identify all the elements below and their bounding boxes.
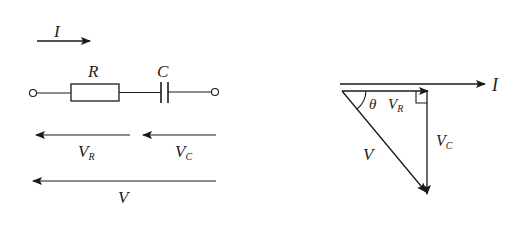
phasor-diagram: I VR VC V θ <box>340 75 499 194</box>
v-label: V <box>118 188 131 207</box>
left-terminal <box>30 90 37 97</box>
resistor-symbol <box>71 84 119 101</box>
vc-label: VC <box>175 142 192 162</box>
resistor-label: R <box>87 62 99 81</box>
vr-label: VR <box>78 142 95 162</box>
phasor-current-label: I <box>491 75 499 95</box>
current-label: I <box>53 22 61 41</box>
right-angle-marker <box>416 91 427 103</box>
capacitor-label: C <box>157 62 169 81</box>
v-phasor <box>342 91 426 192</box>
phasor-v-label: V <box>363 145 376 164</box>
series-rc-circuit: I R C VR VC V <box>30 22 219 207</box>
theta-arc <box>357 91 366 109</box>
theta-label: θ <box>369 96 377 112</box>
right-terminal <box>212 89 219 96</box>
phasor-vc-label: VC <box>436 132 453 151</box>
diagram-canvas: I R C VR VC V I VR <box>0 0 531 226</box>
phasor-vr-label: VR <box>388 96 403 114</box>
capacitor-symbol <box>161 82 168 103</box>
